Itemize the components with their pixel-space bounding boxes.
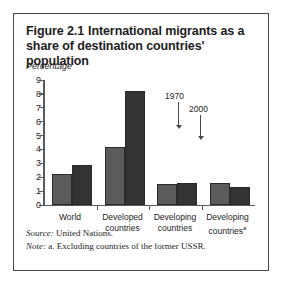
x-axis-category-label: World bbox=[42, 212, 98, 223]
bars-layer bbox=[44, 74, 255, 205]
annotation-label-2000: 2000 bbox=[189, 104, 208, 114]
annotation-label-1970: 1970 bbox=[165, 91, 184, 101]
bar-2000 bbox=[230, 187, 250, 205]
x-axis-group-separator bbox=[97, 205, 98, 210]
x-axis-group-separator bbox=[202, 205, 203, 210]
note-text: a. Excluding countries of the former USS… bbox=[48, 241, 205, 251]
bar-1970 bbox=[157, 184, 177, 205]
figure-notes: Source: United Nations. Note: a. Excludi… bbox=[26, 227, 262, 253]
note-line: Note: a. Excluding countries of the form… bbox=[26, 240, 262, 253]
bar-1970 bbox=[210, 183, 230, 205]
source-line: Source: United Nations. bbox=[26, 227, 262, 240]
figure-number: Figure 2.1 bbox=[26, 24, 84, 38]
chart-plot-area: 0123456789 WorldDevelopedcountriesDevelo… bbox=[26, 74, 258, 206]
bar-2000 bbox=[177, 183, 197, 205]
source-text: United Nations. bbox=[56, 228, 113, 238]
bar-group bbox=[44, 74, 97, 205]
x-axis-group-separator bbox=[149, 205, 150, 210]
annotation-arrow-2000 bbox=[200, 115, 201, 136]
bar-group bbox=[97, 74, 150, 205]
bar-1970 bbox=[52, 174, 72, 205]
note-key: Note: bbox=[26, 241, 46, 251]
source-key: Source: bbox=[26, 228, 54, 238]
bar-group bbox=[202, 74, 255, 205]
bar-2000 bbox=[72, 165, 92, 205]
bar-2000 bbox=[125, 91, 145, 205]
annotation-arrow-1970 bbox=[178, 102, 179, 125]
figure-container: Figure 2.1International migrants as a sh… bbox=[13, 13, 269, 271]
bar-1970 bbox=[105, 147, 125, 205]
y-axis-unit-label: Percentage bbox=[26, 61, 72, 71]
